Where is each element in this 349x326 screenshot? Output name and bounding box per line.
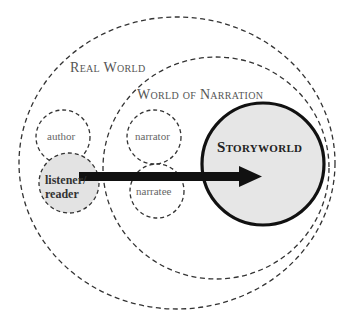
diagram-canvas — [0, 0, 349, 326]
world-of-narration-label: World of Narration — [137, 87, 263, 103]
narratee-label: narratee — [136, 185, 171, 197]
listener-label-line1: listener/ — [45, 173, 86, 187]
narrator-label: narrator — [135, 130, 170, 142]
storyworld-circle — [202, 103, 324, 225]
real-world-label: Real World — [70, 60, 145, 76]
listener-reader-label: listener/ reader — [45, 173, 86, 201]
author-label: author — [47, 130, 75, 142]
listener-label-line2: reader — [45, 187, 86, 201]
storyworld-label: Storyworld — [217, 139, 302, 156]
